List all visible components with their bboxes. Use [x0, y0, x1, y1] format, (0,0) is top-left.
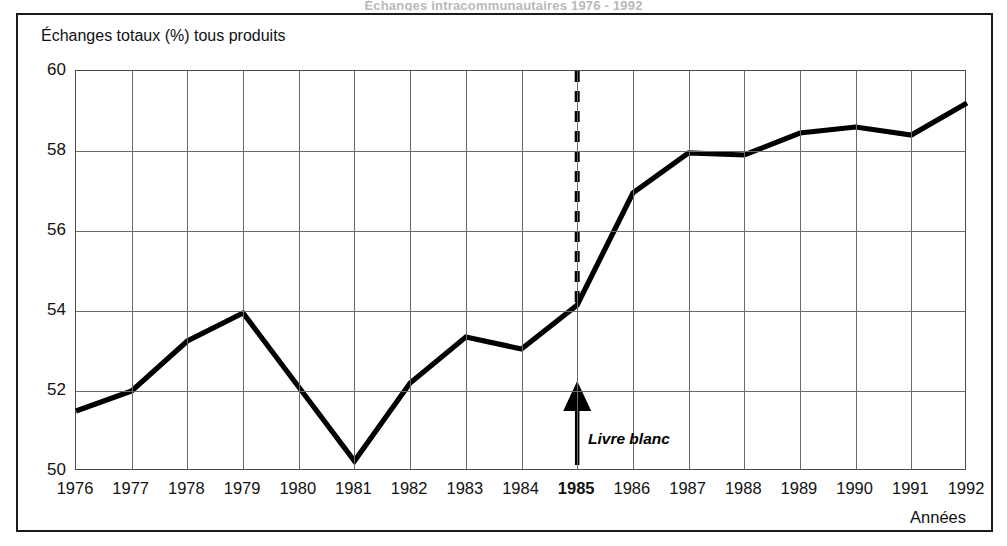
- gridline-vertical: [800, 71, 801, 469]
- livre-blanc-label: Livre blanc: [588, 430, 670, 448]
- y-tick-label: 56: [6, 220, 66, 240]
- x-tick-label: 1980: [279, 479, 316, 498]
- x-tick-label: 1979: [224, 479, 261, 498]
- gridline-horizontal: [76, 231, 965, 232]
- x-tick-label: 1982: [391, 479, 428, 498]
- gridline-vertical: [299, 71, 300, 469]
- gridline-vertical: [689, 71, 690, 469]
- x-tick-label: 1983: [446, 479, 483, 498]
- y-axis-labels: 505254565860: [0, 70, 66, 470]
- x-axis-labels: 1976197719781979198019811982198319841985…: [0, 479, 1007, 505]
- gridline-horizontal: [76, 151, 965, 152]
- x-tick-label: 1981: [335, 479, 372, 498]
- gridline-vertical: [187, 71, 188, 469]
- x-tick-label: 1990: [836, 479, 873, 498]
- x-tick-label: 1984: [502, 479, 539, 498]
- gridline-horizontal: [76, 391, 965, 392]
- gridline-vertical: [132, 71, 133, 469]
- gridline-vertical: [633, 71, 634, 469]
- y-tick-label: 50: [6, 460, 66, 480]
- gridline-vertical: [856, 71, 857, 469]
- gridline-vertical: [243, 71, 244, 469]
- x-tick-label: 1978: [168, 479, 205, 498]
- x-tick-label: 1986: [614, 479, 651, 498]
- x-tick-label: 1988: [725, 479, 762, 498]
- chart-caption: Échanges totaux (%) tous produits: [41, 27, 286, 45]
- y-tick-label: 52: [6, 380, 66, 400]
- gridline-vertical: [410, 71, 411, 469]
- cut-off-title: Échanges intracommunautaires 1976 - 1992: [0, 0, 1007, 11]
- x-tick-label: 1989: [781, 479, 818, 498]
- gridline-horizontal: [76, 311, 965, 312]
- gridline-vertical: [466, 71, 467, 469]
- x-axis-title: Années: [910, 508, 966, 527]
- y-tick-label: 60: [6, 60, 66, 80]
- x-tick-label: 1977: [112, 479, 149, 498]
- gridline-vertical: [354, 71, 355, 469]
- gridline-vertical: [522, 71, 523, 469]
- gridline-vertical: [577, 71, 578, 469]
- y-tick-label: 58: [6, 140, 66, 160]
- y-tick-label: 54: [6, 300, 66, 320]
- plot-area: [75, 70, 966, 470]
- gridline-vertical: [911, 71, 912, 469]
- gridline-vertical: [744, 71, 745, 469]
- x-tick-label: 1987: [669, 479, 706, 498]
- x-tick-label: 1991: [892, 479, 929, 498]
- chart-figure: Échanges intracommunautaires 1976 - 1992…: [0, 0, 1007, 546]
- x-tick-label: 1992: [948, 479, 985, 498]
- x-tick-label: 1976: [57, 479, 94, 498]
- x-tick-label: 1985: [558, 479, 595, 498]
